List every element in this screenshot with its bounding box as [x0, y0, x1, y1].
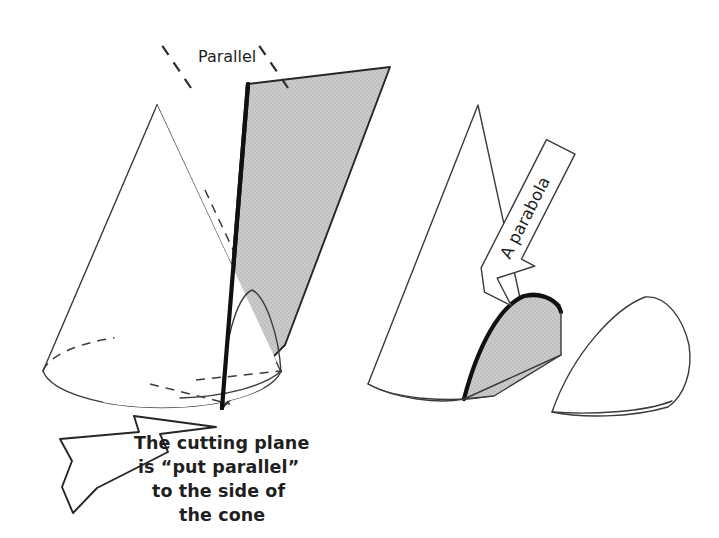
caption-line-2: is “put parallel” [138, 457, 299, 477]
caption-line-3: to the side of [152, 481, 285, 501]
caption-line-4: the cone [179, 505, 265, 525]
figure-canvas: Parallel The cutting plane is “put paral… [0, 0, 719, 538]
parallel-label: Parallel [198, 47, 256, 66]
conic-section-figure: Parallel The cutting plane is “put paral… [0, 0, 719, 538]
caption-line-1: The cutting plane [134, 433, 309, 453]
